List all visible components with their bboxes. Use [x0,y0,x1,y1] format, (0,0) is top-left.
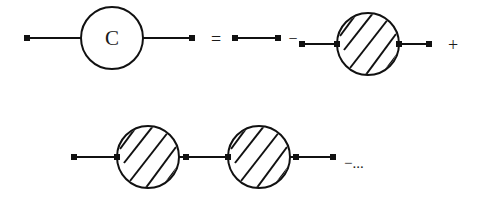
endpoint-node [24,35,30,41]
two-loop-chain-term [71,121,336,193]
minus-sign: − [288,30,297,47]
diagram-canvas: C = − + [0,0,482,199]
bare-propagator [232,35,281,41]
endpoint-node [330,154,336,160]
vertex-node [334,41,340,47]
self-energy-term [299,8,432,80]
vertex-node [183,154,189,160]
endpoint-node [71,154,77,160]
equals-sign: = [211,29,221,49]
vertex-node [114,154,120,160]
endpoint-node [232,35,238,41]
endpoint-node [299,41,305,47]
endpoint-node [275,35,281,41]
full-propagator: C [24,7,195,69]
endpoint-node [189,35,195,41]
vertex-node [225,154,231,160]
ellipsis-term: −... [344,155,364,171]
c-label: C [105,26,119,50]
endpoint-node [426,41,432,47]
plus-sign: + [448,35,458,55]
vertex-node [293,154,299,160]
